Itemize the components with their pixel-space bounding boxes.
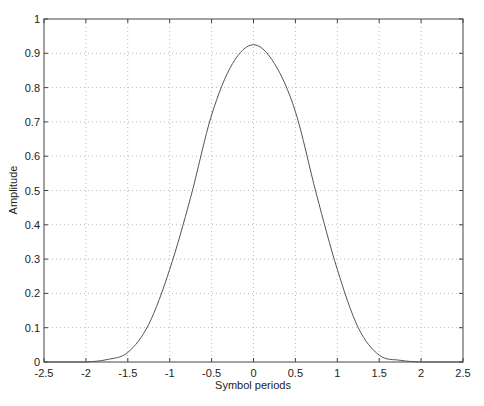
x-tick-label: -1.5	[118, 367, 137, 379]
x-tick-label: 1	[334, 367, 340, 379]
chart: -2.5-2-1.5-1-0.500.511.522.5 00.10.20.30…	[0, 0, 484, 406]
x-tick-label: -2	[81, 367, 91, 379]
y-axis-label: Amplitude	[7, 166, 19, 215]
chart-background	[0, 0, 484, 406]
x-tick-label: 2	[418, 367, 424, 379]
y-tick-label: 0.3	[25, 253, 40, 265]
x-axis-label: Symbol periods	[215, 379, 291, 391]
x-tick-label: -1	[165, 367, 175, 379]
y-tick-label: 1	[34, 13, 40, 25]
y-tick-label: 0.2	[25, 287, 40, 299]
y-tick-label: 0.5	[25, 185, 40, 197]
x-tick-label: 1.5	[372, 367, 387, 379]
y-tick-label: 0.1	[25, 322, 40, 334]
x-tick-label: 0	[250, 367, 256, 379]
y-tick-label: 0.8	[25, 82, 40, 94]
x-tick-label: 2.5	[455, 367, 470, 379]
y-tick-label: 0	[34, 356, 40, 368]
y-tick-label: 0.4	[25, 219, 40, 231]
x-tick-label: -2.5	[35, 367, 54, 379]
x-tick-label: 0.5	[288, 367, 303, 379]
y-tick-label: 0.7	[25, 116, 40, 128]
y-tick-label: 0.9	[25, 47, 40, 59]
x-tick-label: -0.5	[202, 367, 221, 379]
y-tick-label: 0.6	[25, 150, 40, 162]
